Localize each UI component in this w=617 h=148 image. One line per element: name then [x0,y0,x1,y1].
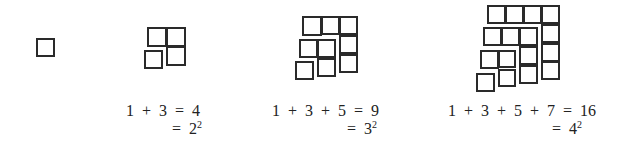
base: 3 [364,120,372,137]
equation-square-2: = 22 [172,120,202,138]
unit-square [501,27,520,46]
unit-square [541,61,560,80]
unit-square [505,5,524,24]
unit-square [498,69,516,87]
exponent: 2 [372,119,377,130]
equation-sum-3: 1 + 3 + 5 = 9 [272,102,379,120]
equation-sum-2: 1 + 3 = 4 [126,102,200,120]
exponent: 2 [197,119,202,130]
base: 2 [189,120,197,137]
equation-square-4: = 42 [552,120,582,138]
unit-square [483,27,502,46]
equation-sum-4: 1 + 3 + 5 + 7 = 16 [448,102,596,120]
unit-square [480,50,499,69]
unit-square [519,27,538,46]
equals-sign: = [347,120,364,137]
group-n4 [0,0,617,148]
equals-sign: = [172,120,189,137]
unit-square [487,5,506,24]
unit-square [541,43,560,62]
unit-square [541,5,560,24]
equation-square-3: = 32 [347,120,377,138]
equals-sign: = [552,120,569,137]
unit-square [541,24,560,43]
unit-square [476,73,495,92]
unit-square [498,50,516,68]
unit-square [519,65,538,84]
unit-square [523,5,542,24]
exponent: 2 [577,119,582,130]
base: 4 [569,120,577,137]
unit-square [519,46,538,65]
